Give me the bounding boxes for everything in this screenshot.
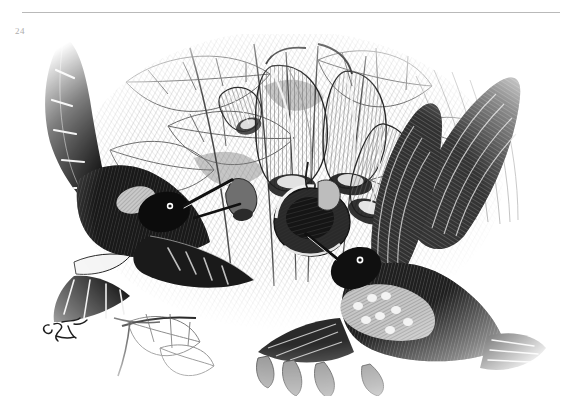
book-page: 24 — [0, 0, 580, 416]
engraving-illustration — [18, 30, 562, 396]
header-rule — [22, 12, 560, 13]
